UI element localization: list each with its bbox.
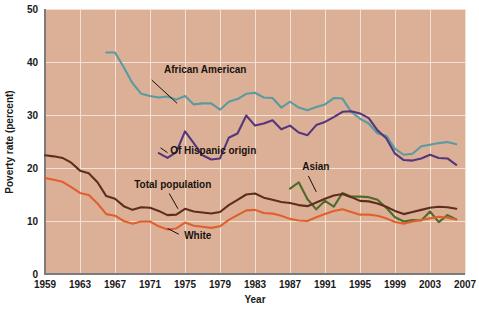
x-tick-label: 1967 [104,279,127,290]
x-tick-label: 1971 [139,279,162,290]
y-tick-label: 50 [27,4,39,15]
x-tick-label: 1995 [349,279,372,290]
x-tick-label: 1979 [209,279,232,290]
x-tick-label: 2007 [454,279,477,290]
series-label: White [184,230,212,241]
y-tick-label: 20 [27,163,39,174]
x-axis-tick-labels: 1959196319671971197519791983198719911995… [34,279,477,290]
y-tick-label: 40 [27,57,39,68]
y-tick-label: 0 [32,269,38,280]
y-axis-tick-labels: 01020304050 [27,4,39,280]
chart-canvas: 01020304050 1959196319671971197519791983… [0,0,479,319]
x-tick-label: 2003 [419,279,442,290]
x-tick-label: 1987 [279,279,302,290]
y-axis-title: Poverty rate (percent) [4,90,15,193]
poverty-rate-chart-figure: 01020304050 1959196319671971197519791983… [0,0,479,319]
x-tick-label: 1991 [314,279,337,290]
series-label: Asian [302,161,329,172]
series-label: African American [164,64,246,75]
series-label: Total population [134,179,211,190]
x-tick-label: 1975 [174,279,197,290]
series-label: Of Hispanic origin [170,145,256,156]
y-tick-label: 10 [27,216,39,227]
x-tick-label: 1963 [69,279,92,290]
y-tick-label: 30 [27,110,39,121]
x-axis-title: Year [244,294,265,305]
x-tick-label: 1983 [244,279,267,290]
x-tick-label: 1999 [384,279,407,290]
x-tick-label: 1959 [34,279,57,290]
